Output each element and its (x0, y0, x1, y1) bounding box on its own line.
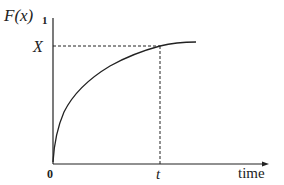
curve-Fx (53, 42, 196, 162)
cumulative-function-diagram: F(x) 1 X 0 t time (0, 0, 284, 185)
origin-label: 0 (47, 167, 53, 181)
y-axis-label: F(x) (3, 6, 34, 25)
y-mark-X: X (32, 38, 44, 55)
x-axis-label: time (238, 165, 265, 181)
y-axis-subscript: 1 (42, 14, 48, 26)
x-mark-t: t (156, 166, 161, 182)
